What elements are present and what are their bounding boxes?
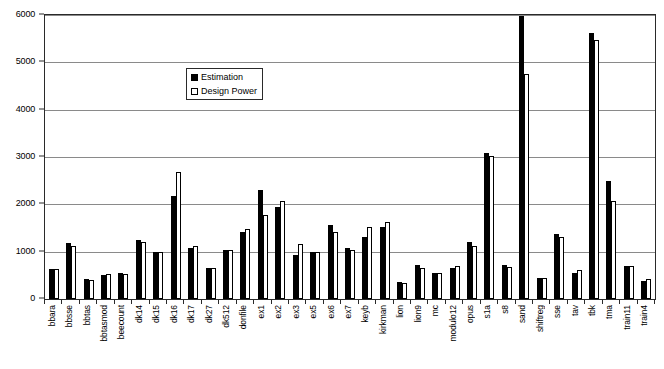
x-tick-mark xyxy=(183,300,184,304)
bar-design-power xyxy=(263,215,268,299)
bar-group xyxy=(62,15,79,299)
x-tick-mark xyxy=(480,300,481,304)
x-tick-mark xyxy=(532,300,533,304)
x-category-label: bbtas xyxy=(83,305,92,325)
plot-area xyxy=(44,14,656,300)
bar-design-power xyxy=(54,269,59,299)
x-category-label: tbk xyxy=(588,305,597,316)
x-category-label: dk15 xyxy=(152,305,161,323)
bar-design-power xyxy=(71,246,76,299)
x-tick-mark xyxy=(44,300,45,304)
bar-design-power xyxy=(437,273,442,299)
bar-group xyxy=(481,15,498,299)
x-category-label: bbtasmod xyxy=(100,305,109,342)
bar-group xyxy=(394,15,411,299)
bar-design-power xyxy=(350,250,355,299)
x-category-label: donfile xyxy=(239,305,248,329)
bar-group xyxy=(620,15,637,299)
bar-chart: 0100020003000400050006000 bbarabbssebbta… xyxy=(0,0,664,369)
bar-design-power xyxy=(611,201,616,299)
x-tick-mark xyxy=(637,300,638,304)
bar-design-power xyxy=(577,270,582,299)
x-tick-mark xyxy=(131,300,132,304)
y-tick-label: 3000 xyxy=(16,152,35,161)
x-category-label: train11 xyxy=(623,305,632,330)
bar-design-power xyxy=(385,222,390,299)
x-tick-mark xyxy=(288,300,289,304)
filled-square-icon xyxy=(191,74,198,81)
x-tick-mark xyxy=(201,300,202,304)
bar-group xyxy=(516,15,533,299)
x-category-label: opus xyxy=(466,305,475,323)
x-tick-mark xyxy=(393,300,394,304)
y-tick-label: 0 xyxy=(30,294,35,303)
x-tick-mark xyxy=(567,300,568,304)
bar-design-power xyxy=(524,74,529,299)
chart-legend: Estimation Design Power xyxy=(186,68,263,100)
bar-design-power xyxy=(629,266,634,299)
bar-group xyxy=(184,15,201,299)
bar-group xyxy=(45,15,62,299)
bar-group xyxy=(341,15,358,299)
bar-design-power xyxy=(367,227,372,299)
x-category-label: dk14 xyxy=(135,305,144,323)
bar-design-power xyxy=(594,40,599,299)
x-category-label: lion9 xyxy=(414,305,423,322)
bar-design-power xyxy=(123,274,128,299)
x-category-label: dk17 xyxy=(187,305,196,323)
bar-group xyxy=(550,15,567,299)
x-category-label: dk512 xyxy=(222,305,231,328)
x-axis-labels: bbarabbssebbtasbbtasmodbeecountdk14dk15d… xyxy=(44,305,656,369)
bar-design-power xyxy=(245,229,250,299)
x-category-label: sand xyxy=(518,305,527,323)
x-tick-mark xyxy=(305,300,306,304)
x-tick-mark xyxy=(96,300,97,304)
x-tick-mark xyxy=(271,300,272,304)
y-tick-label: 5000 xyxy=(16,57,35,66)
bar-group xyxy=(498,15,515,299)
x-category-label: bbsse xyxy=(65,305,74,327)
x-tick-mark xyxy=(584,300,585,304)
bar-design-power xyxy=(542,278,547,299)
x-category-label: modulo12 xyxy=(449,305,458,342)
bar-group xyxy=(115,15,132,299)
x-axis-ticks xyxy=(44,300,656,304)
bar-group xyxy=(324,15,341,299)
bar-design-power xyxy=(228,250,233,299)
bar-group xyxy=(289,15,306,299)
y-tick-label: 6000 xyxy=(16,10,35,19)
bar-group xyxy=(237,15,254,299)
bar-design-power xyxy=(193,246,198,299)
x-category-label: ex7 xyxy=(344,305,353,318)
x-category-label: ex2 xyxy=(274,305,283,318)
x-category-label: dk27 xyxy=(205,305,214,323)
x-category-label: s8 xyxy=(501,305,510,314)
x-tick-mark xyxy=(445,300,446,304)
bar-group xyxy=(638,15,655,299)
bar-design-power xyxy=(472,246,477,299)
y-tick-label: 2000 xyxy=(16,199,35,208)
bar-group xyxy=(272,15,289,299)
bar-group xyxy=(603,15,620,299)
x-category-label: tma xyxy=(605,305,614,319)
bar-group xyxy=(132,15,149,299)
bar-group xyxy=(97,15,114,299)
bar-group xyxy=(254,15,271,299)
x-category-label: train4 xyxy=(640,305,649,326)
x-tick-mark xyxy=(358,300,359,304)
bar-group xyxy=(585,15,602,299)
bar-group xyxy=(428,15,445,299)
x-category-label: shiftreg xyxy=(536,305,545,332)
bar-design-power xyxy=(489,156,494,299)
x-tick-mark xyxy=(253,300,254,304)
bar-group xyxy=(411,15,428,299)
bar-group xyxy=(568,15,585,299)
bar-design-power xyxy=(507,267,512,299)
x-category-label: s1a xyxy=(483,305,492,318)
bar-group xyxy=(376,15,393,299)
x-tick-mark xyxy=(166,300,167,304)
x-category-label: bbara xyxy=(48,305,57,326)
x-category-label: dk16 xyxy=(170,305,179,323)
bar-group xyxy=(446,15,463,299)
x-tick-mark xyxy=(236,300,237,304)
